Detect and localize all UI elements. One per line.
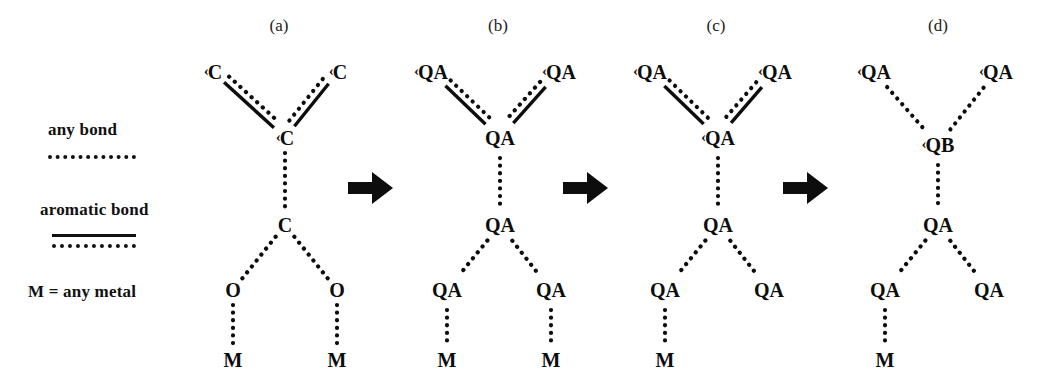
atom-label-qa: QA — [650, 280, 680, 300]
legend-metal-label: M = any metal — [28, 282, 136, 302]
atom-text: QB — [926, 134, 955, 156]
bond-any — [678, 241, 706, 275]
atom-label-qa: QA — [870, 280, 900, 300]
atom-text: O — [225, 279, 241, 301]
atom-label-c: ‹C — [204, 62, 222, 82]
atom-label-qa: ‹QA — [414, 62, 448, 82]
panel-label-d: (d) — [928, 16, 948, 36]
legend-aromatic-bond-sample-solid — [52, 234, 136, 237]
atom-label-qa: QA — [703, 215, 733, 235]
legend-any-bond-label: any bond — [48, 120, 117, 140]
atom-label-m: M — [224, 350, 243, 370]
bond-any — [508, 82, 540, 118]
atom-label-qb: ‹QB — [922, 135, 955, 155]
bond-any — [451, 80, 491, 118]
atom-label-c: ‹C — [329, 62, 347, 82]
legend-aromatic-bond-sample-dotted — [52, 244, 136, 248]
atom-text: QA — [546, 61, 576, 83]
atom-text: QA — [762, 61, 792, 83]
atom-text: QA — [703, 214, 733, 236]
atom-label-qa: ‹QA — [701, 128, 735, 148]
atom-text: QA — [861, 61, 891, 83]
atom-label-qa: QA — [754, 280, 784, 300]
bond-any — [229, 77, 279, 123]
arrow-right-icon — [563, 171, 609, 209]
arrow-right-icon — [348, 171, 394, 209]
atom-label-qa: QA — [485, 128, 515, 148]
atom-label-m: M — [438, 350, 457, 370]
atom-text: C — [280, 127, 294, 149]
atom-label-qa: ‹QA — [542, 62, 576, 82]
bond-aromatic-solid — [224, 82, 274, 128]
atom-text: M — [656, 349, 675, 371]
bond-any — [950, 241, 976, 275]
atom-label-qa: ‹QA — [979, 62, 1013, 82]
atom-label-m: M — [876, 350, 895, 370]
atom-label-qa: QA — [536, 280, 566, 300]
atom-text: QA — [637, 61, 667, 83]
bond-any — [289, 79, 323, 122]
bond-any — [725, 82, 756, 118]
bond-any — [670, 81, 709, 119]
bond-any — [950, 88, 983, 130]
atom-text: C — [208, 61, 222, 83]
panel-label-c: (c) — [707, 16, 726, 36]
bond-aromatic-solid — [445, 86, 485, 124]
atom-text: M — [224, 349, 243, 371]
atom-text: O — [329, 279, 345, 301]
atom-text: QA — [432, 279, 462, 301]
bond-any — [887, 87, 925, 130]
bond-aromatic-solid — [513, 87, 545, 123]
atom-label-qa: QA — [923, 215, 953, 235]
figure-root: any bond aromatic bond M = any metal (a)… — [0, 0, 1040, 386]
atom-text: QA — [418, 61, 448, 83]
legend-any-bond-sample — [48, 155, 136, 159]
atom-label-qa: QA — [974, 280, 1004, 300]
bond-any — [730, 241, 756, 275]
atom-label-qa: ‹QA — [758, 62, 792, 82]
atom-label-qa: ‹QA — [633, 62, 667, 82]
bond-any — [242, 237, 275, 279]
bond-layer — [0, 0, 1040, 386]
atom-label-qa: QA — [432, 280, 462, 300]
atom-label-o: O — [329, 280, 345, 300]
panel-label-b: (b) — [488, 16, 508, 36]
legend-aromatic-bond-label: aromatic bond — [40, 200, 149, 220]
atom-text: C — [333, 61, 347, 83]
bond-any — [294, 237, 327, 279]
atom-label-c: ‹C — [276, 128, 294, 148]
arrow-right-icon — [783, 171, 829, 209]
atom-label-qa: ‹QA — [857, 62, 891, 82]
atom-text: M — [438, 349, 457, 371]
atom-label-o: O — [225, 280, 241, 300]
atom-text: QA — [485, 214, 515, 236]
panel-label-a: (a) — [270, 16, 289, 36]
atom-text: QA — [923, 214, 953, 236]
bond-aromatic-solid — [294, 84, 328, 127]
atom-text: QA — [650, 279, 680, 301]
atom-text: QA — [754, 279, 784, 301]
atom-label-m: M — [542, 350, 561, 370]
atom-text: M — [328, 349, 347, 371]
atom-label-m: M — [656, 350, 675, 370]
atom-label-qa: QA — [485, 215, 515, 235]
bond-aromatic-solid — [731, 87, 762, 123]
atom-text: QA — [536, 279, 566, 301]
atom-text: M — [542, 349, 561, 371]
atom-label-c: C — [278, 215, 292, 235]
atom-text: QA — [974, 279, 1004, 301]
atom-label-m: M — [328, 350, 347, 370]
atom-text: M — [876, 349, 895, 371]
atom-text: QA — [983, 61, 1013, 83]
bond-aromatic-solid — [664, 86, 703, 124]
bond-any — [898, 241, 926, 275]
bond-any — [512, 241, 538, 275]
atom-text: QA — [485, 127, 515, 149]
atom-text: C — [278, 214, 292, 236]
atom-text: QA — [705, 127, 735, 149]
atom-text: QA — [870, 279, 900, 301]
bond-any — [460, 241, 488, 275]
